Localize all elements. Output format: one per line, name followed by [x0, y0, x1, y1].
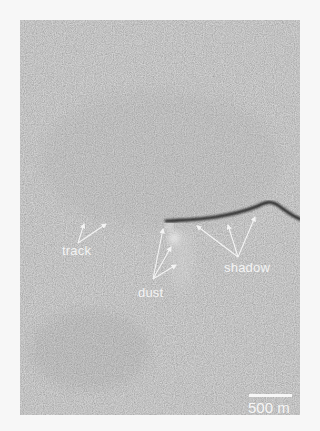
surface-texture [20, 20, 300, 415]
track-label: track [62, 244, 91, 257]
shadow-label: shadow [224, 261, 270, 274]
surface-image [20, 20, 300, 415]
dust-label: dust [138, 286, 163, 299]
dust-column [165, 229, 183, 247]
scale-bar-label: 500 m [248, 400, 290, 415]
